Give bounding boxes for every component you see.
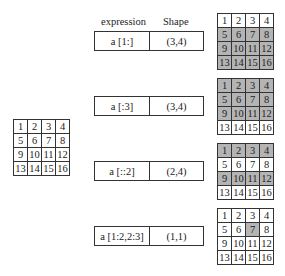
matrix-cell: 9 xyxy=(218,237,232,251)
matrix-row: 13141516 xyxy=(218,121,274,135)
matrix-cell: 4 xyxy=(260,79,274,93)
matrix-cell: 12 xyxy=(260,42,274,56)
matrix-cell: 9 xyxy=(218,172,232,186)
expression-cell: a [::2] xyxy=(95,162,150,180)
matrix-row: 1234 xyxy=(218,79,274,93)
matrix-cell: 3 xyxy=(246,144,260,158)
matrix-row: 9101112 xyxy=(218,237,274,251)
result-matrix-3: 12345678910111213141516 xyxy=(217,208,274,265)
matrix-cell: 7 xyxy=(246,28,260,42)
matrix-cell: 15 xyxy=(246,56,260,70)
matrix-row: 1234 xyxy=(218,209,274,223)
matrix-row: 9101112 xyxy=(218,172,274,186)
matrix-cell: 15 xyxy=(42,162,56,176)
matrix-cell: 4 xyxy=(260,144,274,158)
expression-cell: a [1:] xyxy=(95,32,150,50)
matrix-row: 9101112 xyxy=(14,148,70,162)
matrix-cell: 3 xyxy=(42,120,56,134)
result-matrix-2: 12345678910111213141516 xyxy=(217,143,274,200)
matrix-cell: 9 xyxy=(14,148,28,162)
matrix-cell: 14 xyxy=(232,56,246,70)
matrix-row: 13141516 xyxy=(218,186,274,200)
matrix-cell: 14 xyxy=(28,162,42,176)
matrix-cell: 7 xyxy=(246,158,260,172)
matrix-cell: 1 xyxy=(218,79,232,93)
matrix-cell: 9 xyxy=(218,107,232,121)
matrix-cell: 11 xyxy=(246,42,260,56)
matrix-cell: 8 xyxy=(260,93,274,107)
shape-cell: (2,4) xyxy=(150,162,203,180)
slice-row-1: a [:3] (3,4) xyxy=(94,96,204,116)
matrix-cell: 9 xyxy=(218,42,232,56)
matrix-cell: 5 xyxy=(218,223,232,237)
slice-row-2: a [::2] (2,4) xyxy=(94,161,204,181)
matrix-cell: 2 xyxy=(232,14,246,28)
matrix-row: 9101112 xyxy=(218,107,274,121)
matrix-cell: 2 xyxy=(232,144,246,158)
matrix-cell: 16 xyxy=(56,162,70,176)
matrix-cell: 4 xyxy=(260,209,274,223)
matrix-row: 13141516 xyxy=(14,162,70,176)
source-matrix: 12345678910111213141516 xyxy=(13,119,70,176)
matrix-cell: 16 xyxy=(260,251,274,265)
matrix-cell: 1 xyxy=(218,14,232,28)
matrix-cell: 4 xyxy=(56,120,70,134)
matrix-cell: 5 xyxy=(218,28,232,42)
matrix-cell: 6 xyxy=(28,134,42,148)
slice-row-3: a [1:2,2:3] (1,1) xyxy=(94,226,204,246)
matrix-cell: 11 xyxy=(246,237,260,251)
expression-cell: a [1:2,2:3] xyxy=(95,227,150,245)
matrix-row: 5678 xyxy=(218,93,274,107)
matrix-row: 5678 xyxy=(218,158,274,172)
matrix-cell: 5 xyxy=(218,93,232,107)
matrix-cell: 15 xyxy=(246,121,260,135)
shape-cell: (3,4) xyxy=(150,97,203,115)
matrix-cell: 16 xyxy=(260,186,274,200)
matrix-cell: 7 xyxy=(246,93,260,107)
matrix-cell: 2 xyxy=(232,209,246,223)
matrix-cell: 8 xyxy=(260,158,274,172)
matrix-cell: 3 xyxy=(246,209,260,223)
matrix-cell: 10 xyxy=(232,42,246,56)
matrix-cell: 16 xyxy=(260,56,274,70)
matrix-cell: 10 xyxy=(232,237,246,251)
matrix-cell: 14 xyxy=(232,121,246,135)
matrix-cell: 15 xyxy=(246,251,260,265)
matrix-cell: 7 xyxy=(42,134,56,148)
matrix-cell: 6 xyxy=(232,158,246,172)
matrix-cell: 12 xyxy=(56,148,70,162)
matrix-cell: 13 xyxy=(218,251,232,265)
matrix-cell: 12 xyxy=(260,237,274,251)
matrix-row: 1234 xyxy=(218,14,274,28)
matrix-cell: 8 xyxy=(260,223,274,237)
matrix-cell: 5 xyxy=(218,158,232,172)
shape-cell: (3,4) xyxy=(150,32,203,50)
matrix-row: 13141516 xyxy=(218,251,274,265)
matrix-cell: 6 xyxy=(232,223,246,237)
matrix-row: 5678 xyxy=(218,223,274,237)
matrix-row: 1234 xyxy=(14,120,70,134)
matrix-cell: 14 xyxy=(232,251,246,265)
matrix-cell: 11 xyxy=(246,172,260,186)
matrix-cell: 6 xyxy=(232,28,246,42)
matrix-cell: 10 xyxy=(232,107,246,121)
header-expression: expression xyxy=(101,16,146,27)
matrix-cell: 12 xyxy=(260,172,274,186)
matrix-cell: 6 xyxy=(232,93,246,107)
matrix-cell: 5 xyxy=(14,134,28,148)
matrix-cell: 10 xyxy=(28,148,42,162)
matrix-cell: 15 xyxy=(246,186,260,200)
matrix-cell: 11 xyxy=(246,107,260,121)
matrix-cell: 16 xyxy=(260,121,274,135)
matrix-cell: 1 xyxy=(14,120,28,134)
matrix-cell: 7 xyxy=(246,223,260,237)
matrix-cell: 13 xyxy=(218,56,232,70)
matrix-row: 9101112 xyxy=(218,42,274,56)
result-matrix-0: 12345678910111213141516 xyxy=(217,13,274,70)
header-shape: Shape xyxy=(163,16,189,27)
matrix-cell: 3 xyxy=(246,14,260,28)
shape-cell: (1,1) xyxy=(150,227,203,245)
matrix-row: 13141516 xyxy=(218,56,274,70)
matrix-cell: 10 xyxy=(232,172,246,186)
matrix-cell: 2 xyxy=(28,120,42,134)
